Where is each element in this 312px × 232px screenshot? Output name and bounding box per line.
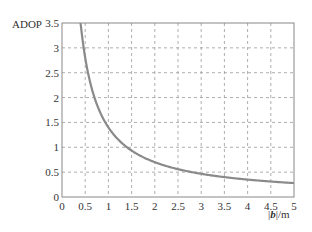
x-tick-label: 5 (291, 200, 297, 212)
y-tick-label: 0.5 (45, 166, 59, 178)
y-tick-label: 2 (54, 92, 60, 104)
x-tick-label: 0 (59, 200, 65, 212)
x-tick-label: 1 (106, 200, 112, 212)
x-tick-label: 4 (245, 200, 251, 212)
chart: 00.511.522.533.5 00.511.522.533.544.55 A… (0, 0, 312, 232)
y-tick-label: 2.5 (45, 67, 59, 79)
adop-curve (81, 23, 294, 183)
y-tick-label: 1 (54, 141, 60, 153)
x-tick-label: 2.5 (171, 200, 185, 212)
x-axis-ticks: 00.511.522.533.544.55 (59, 200, 297, 212)
y-axis-label: ADOP (12, 18, 42, 30)
y-tick-label: 3.5 (45, 17, 59, 29)
y-tick-label: 3 (54, 42, 60, 54)
x-tick-label: 1.5 (125, 200, 139, 212)
x-tick-label: 3 (198, 200, 204, 212)
y-tick-label: 1.5 (45, 116, 59, 128)
x-axis-label: |b|/m (268, 208, 290, 220)
x-tick-label: 0.5 (78, 200, 92, 212)
y-axis-ticks: 00.511.522.533.5 (45, 17, 59, 203)
grid-lines (62, 23, 294, 197)
x-tick-label: 2 (152, 200, 158, 212)
x-tick-label: 3.5 (218, 200, 232, 212)
